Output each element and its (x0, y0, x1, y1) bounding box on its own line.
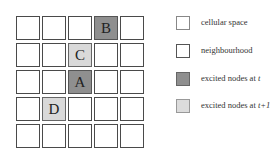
cell-label-a: A (75, 74, 86, 91)
grid-cell-a: A (68, 70, 92, 94)
cellular-space-swatch-icon (176, 16, 190, 30)
grid-cell (94, 124, 118, 148)
cell-label-b: B (101, 20, 111, 37)
legend-label-var: t (258, 73, 260, 83)
excited-t-swatch-icon (176, 72, 190, 86)
grid-cell (94, 70, 118, 94)
legend-label-prefix: excited nodes at (201, 73, 258, 83)
cell-label-c: C (75, 47, 85, 64)
legend-label: neighbourhood (201, 45, 252, 55)
legend-label: excited nodes at t (201, 73, 260, 83)
cell-label-d: D (49, 101, 60, 118)
grid-cell (68, 124, 92, 148)
grid-cell (120, 124, 144, 148)
grid-cell (42, 43, 66, 67)
legend-label: cellular space (201, 17, 247, 27)
grid-cell (120, 16, 144, 40)
grid-cell-d: D (42, 97, 66, 121)
grid-cell (16, 16, 40, 40)
grid-cell (120, 43, 144, 67)
legend-item-excited-t1: excited nodes at t+1 (176, 99, 279, 115)
grid-cell (42, 16, 66, 40)
grid-cell-b: B (94, 16, 118, 40)
cellular-grid: B C A D (16, 16, 146, 150)
excited-t1-swatch-icon (176, 99, 190, 113)
grid-cell-c: C (68, 43, 92, 67)
grid-cell (68, 97, 92, 121)
legend-label: excited nodes at t+1 (201, 100, 270, 110)
grid-cell (120, 70, 144, 94)
grid-cell (16, 43, 40, 67)
grid-cell (42, 70, 66, 94)
grid-cell (16, 70, 40, 94)
legend-item-excited-t: excited nodes at t (176, 72, 279, 88)
grid-cell (68, 16, 92, 40)
legend-label-prefix: excited nodes at (201, 100, 258, 110)
neighbourhood-swatch-icon (176, 44, 190, 58)
grid-cell (42, 124, 66, 148)
grid-cell (16, 97, 40, 121)
grid-cell (16, 124, 40, 148)
grid-cell (120, 97, 144, 121)
legend-item-cellular-space: cellular space (176, 16, 279, 32)
legend-item-neighbourhood: neighbourhood (176, 44, 279, 60)
grid-cell (94, 97, 118, 121)
grid-cell (94, 43, 118, 67)
legend-label-var: t+1 (258, 100, 270, 110)
